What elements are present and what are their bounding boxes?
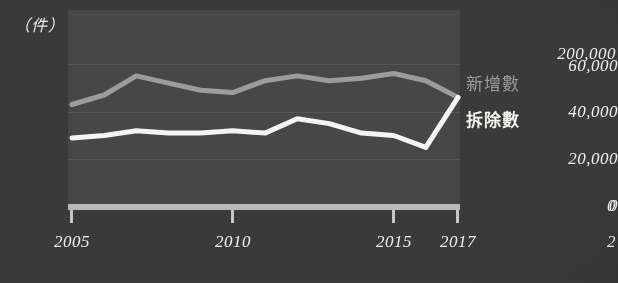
side-y-tick-label-0: 0 <box>607 196 616 216</box>
side-y-tick-label-200000: 200,000 <box>557 44 616 64</box>
side-x-tick-label-partial: 2 <box>607 232 616 252</box>
x-tick-label-2005: 2005 <box>54 232 90 252</box>
x-tick-2017 <box>456 210 459 223</box>
x-tick-2005 <box>70 210 73 223</box>
x-tick-2015 <box>392 210 395 223</box>
adjacent-chart-partial: 200,000 0 2 <box>500 0 618 283</box>
x-tick-2010 <box>231 210 234 223</box>
series-line-new <box>72 74 458 105</box>
x-tick-label-2010: 2010 <box>215 232 251 252</box>
series-line-demolition <box>72 97 458 147</box>
x-tick-label-2017: 2017 <box>440 232 476 252</box>
x-tick-label-2015: 2015 <box>376 232 412 252</box>
x-axis-line <box>68 204 460 210</box>
